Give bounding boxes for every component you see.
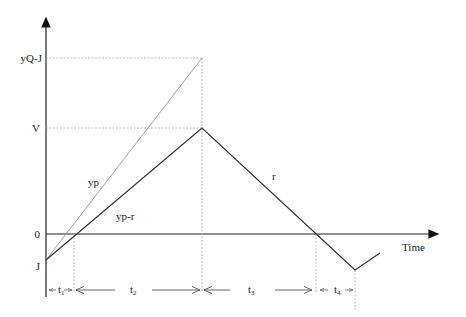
interval-t2: t2 <box>76 283 200 297</box>
label-time: Time <box>402 241 425 253</box>
label-zero: 0 <box>35 228 41 240</box>
inventory-time-diagram: yQ-J V 0 J Time yp yp-r r t1 t2 t3 t4 <box>0 0 466 317</box>
t2-label: t2 <box>130 283 137 297</box>
t4-label: t4 <box>334 283 341 297</box>
label-v: V <box>32 122 40 134</box>
t1-label: t1 <box>58 283 65 297</box>
label-r: r <box>272 170 276 182</box>
label-j: J <box>36 260 41 272</box>
yp-line <box>46 58 202 260</box>
interval-t3: t3 <box>204 283 312 297</box>
interval-t4: t4 <box>320 283 353 297</box>
label-yp: yp <box>88 176 100 188</box>
interval-t1: t1 <box>49 283 72 297</box>
t3-label: t3 <box>248 283 255 297</box>
label-yp-minus-r: yp-r <box>116 210 135 222</box>
label-yqj: yQ-J <box>21 52 43 64</box>
inventory-level-line <box>46 128 380 270</box>
